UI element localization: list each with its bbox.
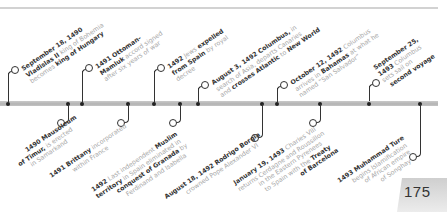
pin-stem: [277, 88, 278, 103]
pin-stem: [180, 104, 181, 119]
pin-ring-icon: [85, 64, 93, 72]
event-sep-1490: September 18, 1490 Vladislas II king of …: [20, 15, 109, 85]
top-rule: [0, 7, 438, 9]
pin-ring-icon: [201, 81, 209, 89]
pin-stem: [420, 104, 421, 153]
pin-stem: [320, 104, 321, 119]
pin-stem: [154, 71, 155, 103]
pin-ring-icon: [11, 66, 19, 74]
pin-stem: [198, 88, 199, 103]
page-number: 175: [404, 183, 431, 200]
pin-ring-icon: [372, 79, 380, 87]
pin-ring-icon: [169, 119, 177, 127]
pin-stem: [8, 73, 9, 103]
timeline-dot: [367, 102, 371, 106]
pin-stem: [82, 71, 83, 103]
pin-stem: [128, 104, 129, 119]
pin-ring-icon: [280, 81, 288, 89]
pin-stem: [262, 104, 263, 134]
pin-ring-icon: [157, 64, 165, 72]
pin-stem: [369, 86, 370, 101]
